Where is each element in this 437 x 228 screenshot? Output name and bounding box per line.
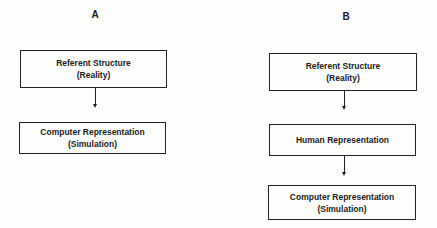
b-computer-representation-box: Computer Representation (Simulation) — [268, 185, 416, 220]
box-title: Computer Representation — [40, 126, 144, 138]
a-referent-structure-box: Referent Structure (Reality) — [20, 50, 167, 88]
b-human-representation-box: Human Representation — [269, 124, 416, 156]
box-title: Human Representation — [296, 134, 389, 146]
box-subtitle: (Reality) — [326, 72, 360, 84]
a-arrow-icon — [95, 88, 96, 105]
box-title: Referent Structure — [56, 57, 131, 69]
box-title: Referent Structure — [306, 60, 381, 72]
box-subtitle: (Simulation) — [68, 138, 117, 150]
a-computer-representation-box: Computer Representation (Simulation) — [19, 122, 166, 154]
box-subtitle: (Simulation) — [317, 203, 366, 215]
diagram-b-label: B — [336, 11, 356, 22]
box-title: Computer Representation — [290, 191, 394, 203]
b-referent-structure-box: Referent Structure (Reality) — [269, 53, 417, 91]
b-arrow-2-icon — [344, 156, 345, 173]
b-arrow-1-icon — [344, 91, 345, 107]
diagram-a-label: A — [85, 9, 105, 20]
box-subtitle: (Reality) — [77, 69, 111, 81]
